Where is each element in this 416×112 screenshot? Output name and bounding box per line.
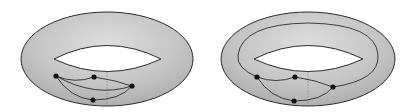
figure (0, 0, 416, 112)
torus-graphs-illustration (0, 0, 416, 112)
right-torus (221, 12, 395, 106)
left-torus (21, 12, 193, 106)
